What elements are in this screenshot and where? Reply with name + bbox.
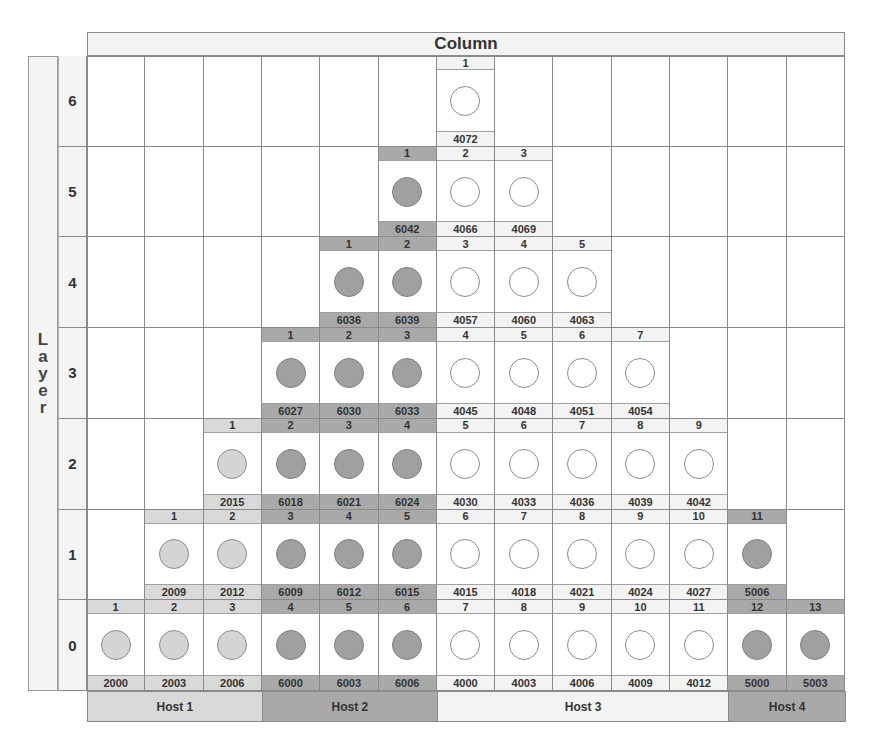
node-slot: 94042 [670, 419, 727, 509]
slot-port-label: 2006 [204, 675, 261, 690]
slot-port-label: 6003 [320, 675, 377, 690]
layer-axis-letter: y [38, 365, 47, 382]
node-circle-icon [625, 449, 655, 479]
layer-number-3: 3 [58, 328, 87, 419]
node-circle-icon [450, 267, 480, 297]
node-circle-icon [509, 177, 539, 207]
node-circle-icon [276, 358, 306, 388]
slot-index-label: 8 [495, 600, 552, 614]
node-circle-icon [684, 539, 714, 569]
slot-index-label: 7 [437, 600, 494, 614]
node-slot: 54030 [437, 419, 494, 509]
layer-number-2: 2 [58, 419, 87, 510]
slot-index-label: 5 [437, 419, 494, 433]
node-slot: 66006 [379, 600, 436, 690]
slot-port-label: 4057 [437, 312, 494, 327]
node-circle-icon [392, 630, 422, 660]
slot-port-label: 6042 [379, 221, 436, 236]
node-slot: 94024 [612, 510, 669, 600]
grid-cell [87, 56, 145, 147]
slot-index-label: 9 [553, 600, 610, 614]
slot-port-label: 4033 [495, 494, 552, 509]
slot-index-label: 7 [495, 510, 552, 524]
node-circle-icon [101, 630, 131, 660]
node-slot: 34057 [437, 237, 494, 327]
node-slot: 74054 [612, 328, 669, 418]
slot-port-label: 6024 [379, 494, 436, 509]
node-slot: 22003 [145, 600, 202, 690]
slot-port-label: 6030 [320, 403, 377, 418]
layer-number-1: 1 [58, 510, 87, 601]
slot-index-label: 1 [379, 147, 436, 161]
node-circle-icon [450, 539, 480, 569]
grid-cell [262, 237, 320, 328]
slot-index-label: 1 [204, 419, 261, 433]
layer-number-0: 0 [58, 600, 87, 691]
node-circle-icon [567, 267, 597, 297]
slot-index-label: 2 [379, 237, 436, 251]
node-circle-icon [450, 449, 480, 479]
node-slot: 26039 [379, 237, 436, 327]
grid-cell [145, 147, 203, 238]
slot-index-label: 4 [320, 510, 377, 524]
slot-port-label: 4006 [553, 675, 610, 690]
grid-cell [87, 328, 145, 419]
slot-port-label: 6027 [262, 403, 319, 418]
slot-port-label: 4054 [612, 403, 669, 418]
slot-index-label: 2 [204, 510, 261, 524]
host-label-3: Host 3 [437, 691, 730, 722]
layer-axis-label: Layer [28, 56, 58, 691]
node-slot: 115006 [728, 510, 785, 600]
node-slot: 32006 [204, 600, 261, 690]
node-slot: 64051 [553, 328, 610, 418]
node-circle-icon [334, 630, 364, 660]
node-circle-icon [450, 358, 480, 388]
node-slot: 44060 [495, 237, 552, 327]
layer-number-4: 4 [58, 237, 87, 328]
node-slot: 104027 [670, 510, 727, 600]
slot-index-label: 4 [495, 237, 552, 251]
node-circle-icon [509, 358, 539, 388]
node-circle-icon [392, 449, 422, 479]
grid-cell [670, 328, 728, 419]
node-slot: 64015 [437, 510, 494, 600]
node-circle-icon [276, 630, 306, 660]
node-slot: 26030 [320, 328, 377, 418]
grid-cell [145, 419, 203, 510]
grid-cell [787, 56, 845, 147]
slot-port-label: 4039 [612, 494, 669, 509]
node-slot: 46024 [379, 419, 436, 509]
column-axis-title: Column [434, 34, 497, 54]
slot-index-label: 10 [670, 510, 727, 524]
slot-index-label: 3 [437, 237, 494, 251]
slot-port-label: 4072 [437, 131, 494, 146]
node-circle-icon [625, 630, 655, 660]
slot-index-label: 8 [553, 510, 610, 524]
node-circle-icon [334, 267, 364, 297]
node-slot: 84003 [495, 600, 552, 690]
node-slot: 46000 [262, 600, 319, 690]
node-slot: 46012 [320, 510, 377, 600]
node-circle-icon [450, 177, 480, 207]
slot-index-label: 4 [379, 419, 436, 433]
node-slot: 16042 [379, 147, 436, 237]
slot-port-label: 4015 [437, 584, 494, 599]
slot-index-label: 5 [379, 510, 436, 524]
node-slot: 26018 [262, 419, 319, 509]
layer-number-5: 5 [58, 147, 87, 238]
slot-port-label: 6021 [320, 494, 377, 509]
grid-cell [553, 56, 611, 147]
node-circle-icon [392, 267, 422, 297]
slot-port-label: 4018 [495, 584, 552, 599]
node-circle-icon [159, 630, 189, 660]
slot-index-label: 2 [320, 328, 377, 342]
node-circle-icon [392, 177, 422, 207]
node-slot: 36009 [262, 510, 319, 600]
grid-cell [553, 147, 611, 238]
node-slot: 12009 [145, 510, 202, 600]
grid-cell [320, 147, 378, 238]
slot-index-label: 6 [437, 510, 494, 524]
slot-port-label: 6012 [320, 584, 377, 599]
slot-port-label: 2003 [145, 675, 202, 690]
layer-number-column: 6543210 [58, 56, 87, 691]
